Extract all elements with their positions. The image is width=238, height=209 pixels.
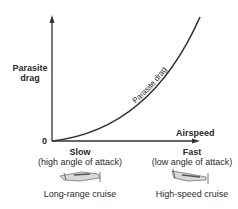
x-axis-label: Airspeed [176,128,215,138]
slow-subtitle: (high angle of attack) [36,157,124,167]
fast-caption: High-speed cruise [148,189,236,199]
y-axis-arrow [50,15,55,23]
airplane-nose-up-icon [60,172,100,182]
fast-subtitle: (low angle of attack) [148,157,236,167]
slow-title: Slow [60,147,100,157]
parasite-drag-curve [52,17,200,141]
y-axis-label: Parasite drag [10,63,50,83]
slow-caption: Long-range cruise [36,189,124,199]
drag-diagram: Parasite drag [0,0,238,209]
origin-label: 0 [42,136,47,146]
curve-label: Parasite drag [131,65,169,105]
airplane-nose-down-icon [172,169,208,184]
x-axis-arrow [192,139,200,144]
fast-title: Fast [172,147,212,157]
